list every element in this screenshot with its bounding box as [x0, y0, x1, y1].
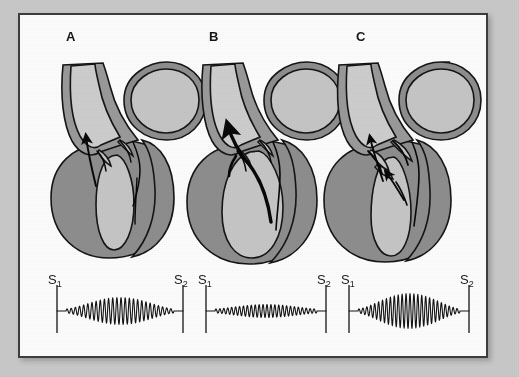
- heart-b-atrium: [264, 62, 347, 140]
- figure-root: A B C S1 S2 S1 S2 S1 S2: [0, 0, 519, 377]
- murmur-trace-a: [57, 298, 183, 325]
- heart-cross-section-b: [187, 62, 347, 264]
- figure-artwork: [0, 0, 519, 377]
- murmur-trace-b: [206, 305, 326, 318]
- heart-c-atrium: [399, 62, 481, 140]
- heart-a-lv-cavity: [96, 155, 134, 250]
- phonocardiogram-b: [206, 285, 326, 333]
- heart-cross-section-a: [51, 62, 206, 258]
- murmur-trace-c: [349, 294, 469, 329]
- heart-cross-section-c: [324, 62, 481, 262]
- panels-layer: A B C S1 S2 S1 S2 S1 S2: [0, 0, 519, 377]
- phonocardiogram-c: [349, 285, 469, 333]
- heart-a-atrium: [124, 62, 206, 140]
- phonocardiogram-a: [57, 285, 183, 333]
